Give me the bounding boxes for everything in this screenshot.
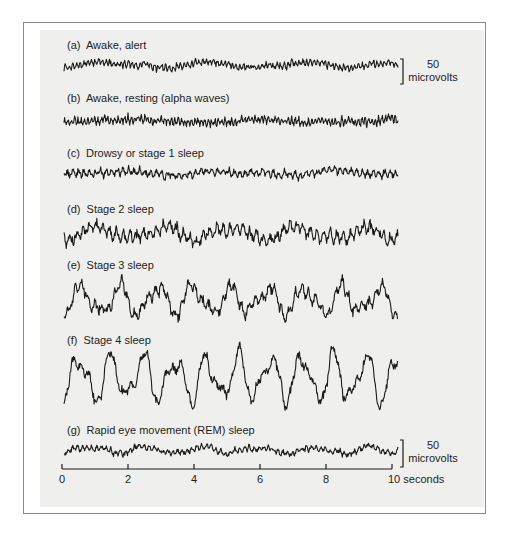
time-axis-tick-label: 10 seconds [388, 473, 444, 485]
trace-label-e: (e) Stage 3 sleep [67, 259, 154, 271]
trace-label-b: (b) Awake, resting (alpha waves) [67, 92, 229, 104]
time-axis-tick-label: 8 [323, 473, 329, 485]
trace-label-g: (g) Rapid eye movement (REM) sleep [67, 424, 255, 436]
trace-label-d: (d) Stage 2 sleep [67, 203, 154, 215]
eeg-trace-d [64, 218, 398, 248]
scale-bar-top-label: 50 microvolts [398, 58, 468, 84]
eeg-trace-f [64, 342, 398, 410]
scale-bar-bottom-unit: microvolts [398, 452, 468, 465]
scale-bar-bottom-label: 50 microvolts [398, 439, 468, 465]
eeg-trace-a [64, 58, 398, 72]
time-axis-tick-label: 0 [59, 473, 65, 485]
eeg-trace-g [64, 443, 398, 457]
eeg-trace-b [64, 113, 398, 128]
time-axis-tick-label: 2 [125, 473, 131, 485]
eeg-trace-c [64, 165, 398, 181]
scale-bar-top-value: 50 [398, 58, 468, 71]
time-axis-tick-label: 6 [257, 473, 263, 485]
eeg-trace-e [64, 274, 398, 322]
time-axis-tick-label: 4 [191, 473, 197, 485]
trace-label-c: (c) Drowsy or stage 1 sleep [67, 147, 204, 159]
trace-label-f: (f) Stage 4 sleep [67, 334, 151, 346]
scale-bar-bottom-value: 50 [398, 439, 468, 452]
trace-label-a: (a) Awake, alert [67, 39, 146, 51]
scale-bar-top-unit: microvolts [398, 71, 468, 84]
